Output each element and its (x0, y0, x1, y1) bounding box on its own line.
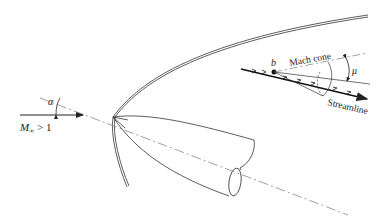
mach-cone-label: Mach cone (289, 51, 332, 68)
mu-angle-arc (346, 58, 349, 81)
mach-cone-group: b μ Mach cone Streamline (241, 51, 370, 116)
body-shape (113, 116, 254, 197)
supersonic-body-diagram: α M∞ > 1 b μ Mach cone (0, 0, 389, 222)
streamline-label: Streamline (327, 97, 369, 116)
mu-label: μ (351, 65, 357, 76)
mach-freestream-label: M∞ > 1 (19, 121, 51, 135)
alpha-angle-arc (56, 98, 60, 115)
body-axis-line (40, 98, 348, 215)
point-b-label: b (271, 57, 276, 68)
alpha-label: α (48, 96, 54, 107)
streamline (241, 69, 367, 99)
